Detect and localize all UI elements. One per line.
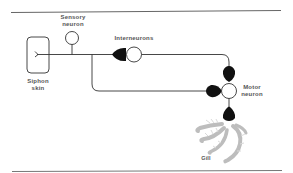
sensory-neuron-label-line1: Sensory	[58, 14, 88, 21]
motor-neuron-label-line2: neuron	[238, 91, 266, 98]
motor-neuron-cell	[222, 84, 237, 99]
interneuron-to-motor-axon	[142, 55, 230, 68]
motor-neuron-label: Motor neuron	[238, 84, 266, 98]
interneuron-cell	[127, 47, 142, 62]
sensory-neuron-label: Sensory neuron	[58, 14, 88, 28]
siphon-skin-label-line2: skin	[24, 85, 52, 92]
motor-neuron-label-line1: Motor	[238, 84, 266, 91]
gill-label: Gill	[198, 155, 214, 162]
siphon-skin-label: Siphon skin	[24, 78, 52, 92]
interneuron-synapse-icon	[112, 48, 126, 61]
top-rule	[11, 11, 281, 13]
gill-synapse-icon	[223, 106, 235, 121]
motor-left-synapse-icon	[206, 85, 222, 97]
interneurons-label: Interneurons	[112, 35, 156, 42]
sensory-to-motor-branch	[92, 55, 212, 92]
sensory-neuron-cell	[66, 32, 79, 45]
sensory-neuron-label-line2: neuron	[58, 21, 88, 28]
motor-top-synapse-icon	[223, 66, 235, 82]
bottom-rule	[12, 171, 282, 172]
siphon-skin-label-line1: Siphon	[24, 78, 52, 85]
